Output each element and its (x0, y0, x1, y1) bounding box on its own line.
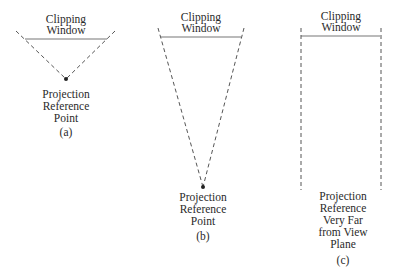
projection-diagram: Clipping Window Projection Reference Poi… (0, 0, 399, 277)
window-label-line2: Window (321, 21, 361, 33)
projector-right (66, 31, 115, 79)
point-label-line2: Reference (320, 202, 367, 214)
panel-b: Clipping Window Projection Reference Poi… (158, 11, 244, 243)
point-label-line2: Reference (180, 203, 227, 215)
caption-b: (b) (196, 230, 210, 243)
window-label-line2: Window (46, 24, 86, 36)
projector-left (16, 31, 66, 79)
panel-a: Clipping Window Projection Reference Poi… (16, 13, 115, 139)
point-label-line3: Point (191, 215, 216, 227)
point-label-line2: Reference (43, 100, 90, 112)
projection-reference-point (201, 185, 205, 189)
projector-left (158, 28, 203, 187)
window-label-line2: Window (181, 22, 221, 34)
projector-right (203, 28, 244, 187)
caption-a: (a) (60, 126, 73, 139)
point-label-line5: Plane (330, 238, 356, 250)
panel-c: Clipping Window Projection Reference Ver… (301, 10, 381, 267)
caption-c: (c) (337, 254, 350, 267)
point-label-line3: Point (54, 112, 79, 124)
point-label-line4: from View (318, 226, 368, 238)
projection-reference-point (64, 77, 68, 81)
